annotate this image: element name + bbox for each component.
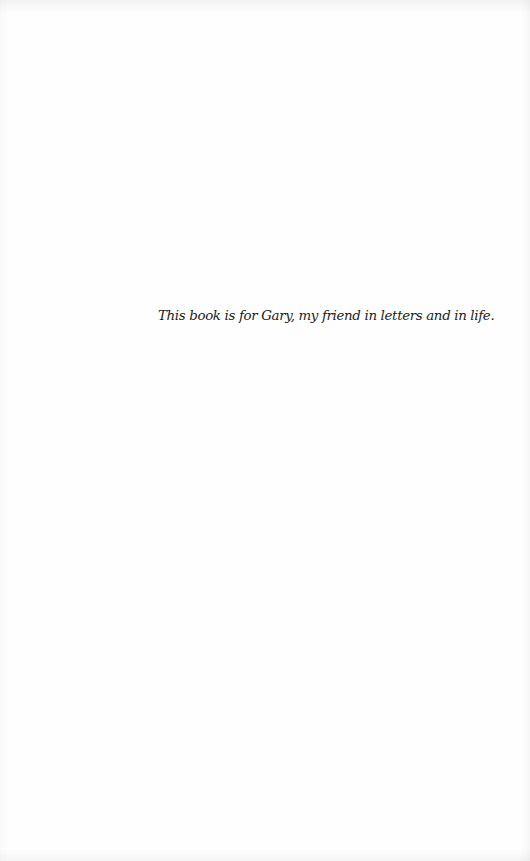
dedication-text: This book is for Gary, my friend in lett… [158,306,448,326]
book-page: This book is for Gary, my friend in lett… [0,0,530,861]
